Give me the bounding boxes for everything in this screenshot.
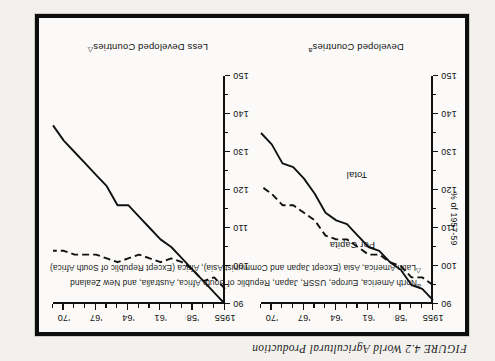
x-tick-label: '70 — [50, 313, 78, 323]
curves-developed — [261, 76, 433, 304]
y-tick-label: 100 — [441, 262, 463, 270]
series-label-per-capita-developed: Per Capita — [330, 240, 375, 250]
series-per-capita-developed — [261, 186, 433, 285]
y-tick-label: 100 — [233, 262, 255, 270]
y-tick-label: 130 — [233, 148, 255, 156]
x-tick — [62, 304, 63, 310]
y-tick — [225, 94, 228, 95]
y-tick-label: 110 — [441, 224, 463, 232]
x-tick-label: 1955 — [211, 313, 239, 323]
x-tick — [356, 304, 357, 308]
y-tick — [225, 265, 230, 266]
series-label-total-developed: Total — [347, 170, 367, 180]
y-tick — [225, 189, 230, 190]
x-tick-label: '70 — [258, 313, 286, 323]
x-tick — [84, 304, 85, 308]
y-tick-label: 120 — [441, 186, 463, 194]
y-tick-label: 90 — [441, 300, 463, 308]
panel-title-less-developed-text: Less Developed Countries — [93, 42, 208, 53]
x-tick — [170, 304, 171, 308]
x-tick — [367, 304, 368, 310]
x-tick-label: '61 — [147, 313, 175, 323]
x-tick — [421, 304, 422, 308]
y-tick — [225, 303, 230, 304]
x-tick — [281, 304, 282, 308]
x-tick — [95, 304, 96, 310]
x-tick — [389, 304, 390, 308]
y-tick — [433, 75, 438, 76]
y-tick — [433, 170, 436, 171]
y-tick-label: 150 — [233, 72, 255, 80]
x-tick — [73, 304, 74, 308]
x-tick — [159, 304, 160, 310]
y-tick — [433, 132, 436, 133]
x-tick — [378, 304, 379, 308]
x-tick — [399, 304, 400, 310]
y-tick — [225, 113, 230, 114]
y-tick — [433, 94, 436, 95]
y-tick-label: 130 — [441, 148, 463, 156]
x-tick-label: 1955 — [419, 313, 447, 323]
x-tick — [292, 304, 293, 308]
y-tick-label: 90 — [233, 300, 255, 308]
x-tick — [105, 304, 106, 308]
panel-title-developed: Developed Countriesa — [253, 42, 459, 54]
scanned-page: FIGURE 4.2 World Agricultural Production… — [0, 0, 495, 361]
y-tick — [433, 189, 438, 190]
y-tick-label: 140 — [441, 110, 463, 118]
x-tick-label: '67 — [290, 313, 318, 323]
x-tick — [191, 304, 192, 310]
x-tick — [148, 304, 149, 308]
panel-title-less-developed-mark: △ — [88, 47, 93, 54]
panel-less-developed-countries: 901001101201301401501955'58'61'64'67'70 … — [45, 16, 251, 326]
x-tick — [303, 304, 304, 310]
x-tick-label: '61 — [355, 313, 383, 323]
x-tick-label: '64 — [322, 313, 350, 323]
plot-area-developed: % of 1957-59 Total Per Capita 9010011012… — [261, 76, 433, 304]
y-tick — [225, 208, 228, 209]
y-tick — [433, 208, 436, 209]
series-total-less-developed — [53, 125, 225, 304]
panel-title-less-developed: Less Developed Countries△ — [45, 42, 251, 54]
y-tick — [433, 113, 438, 114]
panel-developed-countries: % of 1957-59 Total Per Capita 9010011012… — [253, 16, 459, 326]
x-tick-label: '64 — [114, 313, 142, 323]
y-tick — [225, 284, 228, 285]
x-tick — [202, 304, 203, 308]
y-tick — [225, 75, 230, 76]
x-tick — [213, 304, 214, 308]
y-tick-label: 120 — [233, 186, 255, 194]
y-tick-label: 150 — [441, 72, 463, 80]
y-axis-title: % of 1957-59 — [449, 192, 459, 246]
x-tick — [432, 304, 433, 310]
y-tick — [225, 170, 228, 171]
x-tick-label: '67 — [82, 313, 110, 323]
y-tick-label: 140 — [233, 110, 255, 118]
x-tick — [410, 304, 411, 308]
x-tick-label: '58 — [387, 313, 415, 323]
x-tick — [313, 304, 314, 308]
y-tick-label: 110 — [233, 224, 255, 232]
x-tick — [324, 304, 325, 308]
y-tick — [225, 246, 228, 247]
x-tick — [335, 304, 336, 310]
y-tick — [433, 246, 436, 247]
panel-title-developed-text: Developed Countries — [312, 42, 403, 53]
plot-area-less-developed: 901001101201301401501955'58'61'64'67'70 — [53, 76, 225, 304]
x-tick — [224, 304, 225, 310]
y-tick — [225, 227, 230, 228]
x-tick — [181, 304, 182, 308]
panel-title-developed-mark: a — [308, 47, 312, 54]
y-tick — [433, 151, 438, 152]
x-tick — [270, 304, 271, 310]
figure-caption: FIGURE 4.2 World Agricultural Production — [27, 343, 467, 355]
x-tick — [346, 304, 347, 308]
x-tick — [116, 304, 117, 308]
x-tick — [127, 304, 128, 310]
curves-less-developed — [53, 76, 225, 304]
y-tick — [433, 265, 438, 266]
figure-frame: aNorth America, Europe, USSR, Japan, Rep… — [35, 14, 469, 336]
x-tick-label: '58 — [179, 313, 207, 323]
x-tick — [52, 304, 53, 308]
series-total-developed — [261, 133, 433, 300]
